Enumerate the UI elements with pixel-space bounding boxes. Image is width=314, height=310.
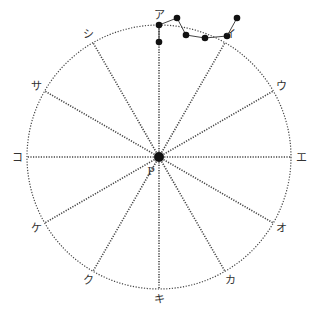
spoke-label: カ [225,274,236,285]
path-dot [202,35,209,42]
path-dot [174,15,181,22]
spoke-label: シ [83,29,94,40]
spoke-line [159,91,273,157]
spoke-label: コ [12,152,23,163]
spoke-line [93,43,159,157]
spoke-line [159,43,225,157]
path-dot [234,15,241,22]
center-point-p [154,152,164,162]
path-dot [183,32,190,39]
spoke-line [159,157,273,223]
spoke-line [159,157,225,271]
spoke-label: ケ [31,223,42,234]
spoke-label: ア [154,10,165,21]
path-dot [156,22,163,29]
spoke-label: ク [83,274,94,285]
spoke-label: エ [296,152,307,163]
path-dot [156,39,163,46]
spoke-label: ウ [276,81,287,92]
spoke-label: サ [31,81,42,92]
spoke-label: イ [225,29,236,40]
circle-diagram [0,0,314,310]
spoke-line [45,91,159,157]
spoke-line [45,157,159,223]
spoke-label: オ [276,223,287,234]
spoke-label: キ [154,294,165,305]
center-label: P [147,166,154,177]
